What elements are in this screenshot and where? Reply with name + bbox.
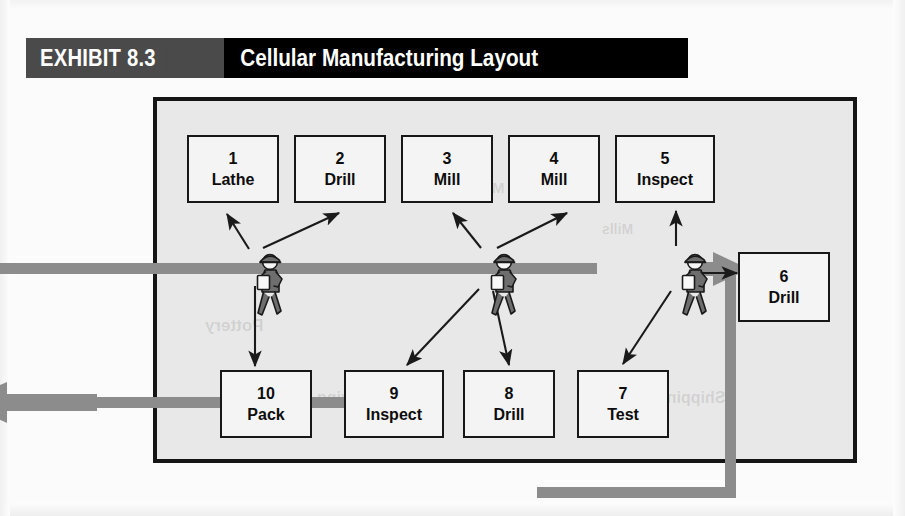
station-7[interactable]: 7Test: [577, 370, 669, 438]
page-edge-bottom: [0, 502, 905, 516]
page-edge-left: [0, 0, 10, 516]
exhibit-title: Cellular Manufacturing Layout: [224, 45, 538, 72]
station-number: 5: [661, 150, 670, 168]
worker-figure-graphic: [673, 253, 719, 325]
worker-figure-graphic: [482, 253, 528, 325]
worker-2[interactable]: [482, 253, 528, 329]
exhibit-tag-block: EXHIBIT 8.3: [26, 38, 224, 78]
station-8[interactable]: 8Drill: [463, 370, 555, 438]
worker-3[interactable]: [673, 253, 719, 329]
station-number: 6: [780, 268, 789, 286]
station-name: Drill: [768, 289, 799, 307]
diagram-canvas: PotteryShippingReceivingMixingMills: [157, 101, 853, 459]
station-5[interactable]: 5Inspect: [615, 135, 715, 203]
station-name: Drill: [324, 171, 355, 189]
station-1[interactable]: 1Lathe: [187, 135, 279, 203]
station-number: 9: [390, 385, 399, 403]
station-number: 8: [505, 385, 514, 403]
station-number: 3: [443, 150, 452, 168]
arrow-w1-to-station2: [263, 213, 339, 248]
page-edge-top: [0, 0, 905, 10]
worker-figure-graphic: [248, 253, 294, 325]
station-name: Mill: [541, 171, 568, 189]
worker-1[interactable]: [248, 253, 294, 329]
arrow-w1-to-station1: [227, 214, 249, 249]
station-name: Lathe: [212, 171, 255, 189]
station-4[interactable]: 4Mill: [508, 135, 600, 203]
station-name: Mill: [434, 171, 461, 189]
station-6[interactable]: 6Drill: [738, 252, 830, 322]
station-10[interactable]: 10Pack: [220, 370, 312, 438]
station-name: Inspect: [637, 171, 693, 189]
arrow-w2-to-station9: [407, 289, 479, 365]
station-3[interactable]: 3Mill: [401, 135, 493, 203]
cell-boundary-frame: PotteryShippingReceivingMixingMills: [153, 97, 857, 463]
exhibit-title-bar: EXHIBIT 8.3 Cellular Manufacturing Layou…: [26, 38, 688, 78]
station-number: 4: [550, 150, 559, 168]
station-name: Test: [607, 406, 639, 424]
arrow-w2-to-station3: [453, 213, 481, 248]
station-2[interactable]: 2Drill: [294, 135, 386, 203]
exhibit-number: EXHIBIT 8.3: [26, 45, 168, 72]
station-name: Inspect: [366, 406, 422, 424]
exhibit-title-block: Cellular Manufacturing Layout: [224, 38, 688, 78]
page-edge-right: [893, 0, 905, 516]
ghost-text: Mills: [602, 221, 633, 237]
station-number: 7: [619, 385, 628, 403]
station-name: Pack: [247, 406, 284, 424]
arrow-w2-to-station4: [497, 213, 567, 248]
scanned-page: EXHIBIT 8.3 Cellular Manufacturing Layou…: [0, 0, 905, 516]
station-number: 2: [336, 150, 345, 168]
station-name: Drill: [493, 406, 524, 424]
arrow-w3-to-station7: [623, 291, 671, 364]
station-number: 10: [257, 385, 275, 403]
station-number: 1: [229, 150, 238, 168]
station-9[interactable]: 9Inspect: [344, 370, 444, 438]
